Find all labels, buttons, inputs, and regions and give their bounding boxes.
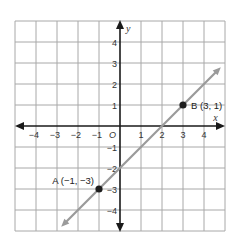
y-tick-label: 1	[112, 101, 117, 111]
y-axis-label: y	[125, 23, 131, 34]
axes: xy	[15, 20, 225, 232]
x-tick-label: 3	[180, 130, 185, 140]
point-label-a: A (−1, −3)	[52, 175, 94, 186]
x-axis-arrow-right-icon	[216, 122, 225, 130]
x-axis-label: x	[212, 112, 218, 123]
x-axis-arrow-left-icon	[15, 122, 24, 130]
point-label-b: B (3, 1)	[191, 100, 222, 111]
x-tick-label: −3	[50, 130, 60, 140]
point-b	[179, 101, 186, 108]
coordinate-plane: xy −4−3−2−112344321−1−2−3−4O A (−1, −3)B…	[0, 0, 238, 244]
x-tick-label: 4	[201, 130, 206, 140]
origin-label: O	[109, 130, 116, 140]
y-tick-label: 4	[112, 38, 117, 48]
y-tick-label: −4	[107, 206, 117, 216]
y-tick-label: −1	[107, 143, 117, 153]
point-a	[95, 185, 102, 192]
x-tick-label: −4	[29, 130, 39, 140]
x-tick-label: −2	[71, 130, 81, 140]
x-tick-label: −1	[92, 130, 102, 140]
y-tick-label: −3	[107, 185, 117, 195]
x-tick-label: 1	[138, 130, 143, 140]
x-tick-label: 2	[159, 130, 164, 140]
y-tick-label: 2	[112, 80, 117, 90]
y-tick-label: 3	[112, 59, 117, 69]
